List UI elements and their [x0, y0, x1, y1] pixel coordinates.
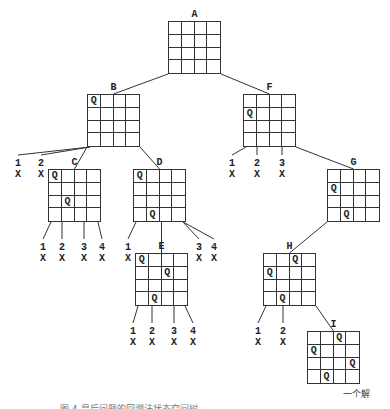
board-cell	[346, 332, 359, 345]
failed-leaf: 2X	[147, 326, 157, 348]
fail-mark-icon: X	[38, 253, 48, 264]
board-cell	[126, 121, 139, 134]
board-cell	[114, 121, 127, 134]
leaf-number: 2	[278, 326, 288, 337]
fail-mark-icon: X	[188, 337, 198, 348]
failed-leaf: 2X	[278, 326, 288, 348]
board-cell	[195, 22, 208, 35]
board-cell	[366, 208, 379, 221]
board-cell	[126, 133, 139, 146]
board-cell	[270, 121, 283, 134]
edge-leaf	[183, 222, 199, 239]
queen-cell: Q	[162, 267, 175, 280]
board-cell	[290, 292, 303, 305]
queen-cell: Q	[264, 267, 277, 280]
failed-leaf: 4X	[188, 326, 198, 348]
board-cell	[195, 35, 208, 48]
queen-cell: Q	[62, 196, 75, 209]
leaf-number: 1	[13, 158, 23, 169]
board-cell	[290, 280, 303, 293]
board-cell	[244, 133, 257, 146]
board-A	[168, 21, 221, 74]
board-cell	[207, 48, 220, 61]
fail-mark-icon: X	[147, 337, 157, 348]
queen-cell: Q	[321, 370, 334, 383]
board-cell	[354, 183, 367, 196]
board-cell	[114, 133, 127, 146]
board-cell	[270, 108, 283, 121]
fail-mark-icon: X	[57, 253, 67, 264]
board-cell	[147, 183, 160, 196]
board-cell	[321, 358, 334, 371]
board-cell	[62, 183, 75, 196]
board-cell	[174, 280, 187, 293]
failed-leaf: 1X	[13, 158, 23, 180]
board-cell	[49, 208, 62, 221]
board-cell	[160, 170, 173, 183]
edge-leaf	[128, 222, 136, 239]
board-cell	[169, 22, 182, 35]
node-label-A: A	[192, 10, 198, 20]
board-cell	[290, 267, 303, 280]
edge-leaf	[185, 306, 193, 323]
figure-caption: 图 4-皇后问题的回溯法状态空间树	[60, 402, 340, 409]
failed-leaf: 1X	[227, 158, 237, 180]
leaf-number: 2	[147, 326, 157, 337]
board-cell	[160, 183, 173, 196]
board-G: QQ	[327, 169, 380, 222]
board-cell	[257, 133, 270, 146]
board-cell	[321, 345, 334, 358]
failed-leaf: 1X	[123, 242, 133, 264]
board-cell	[302, 292, 315, 305]
edge-leaf	[183, 222, 214, 239]
board-cell	[88, 121, 101, 134]
board-cell	[149, 254, 162, 267]
board-cell	[264, 280, 277, 293]
board-cell	[147, 196, 160, 209]
board-cell	[172, 170, 185, 183]
node-label-G: G	[351, 158, 357, 168]
board-cell	[354, 170, 367, 183]
board-cell	[149, 267, 162, 280]
edge-leaf	[258, 306, 266, 323]
fail-mark-icon: X	[194, 253, 204, 264]
board-cell	[270, 95, 283, 108]
board-cell	[244, 121, 257, 134]
board-cell	[49, 183, 62, 196]
board-B: Q	[87, 94, 140, 147]
queen-cell: Q	[290, 254, 303, 267]
board-cell	[321, 332, 334, 345]
leaf-number: 1	[227, 158, 237, 169]
fail-mark-icon: X	[36, 169, 46, 180]
board-cell	[172, 183, 185, 196]
edge-leaf	[18, 147, 90, 155]
fail-mark-icon: X	[252, 169, 262, 180]
board-cell	[172, 196, 185, 209]
board-cell	[207, 35, 220, 48]
board-cell	[87, 208, 100, 221]
queen-cell: Q	[134, 170, 147, 183]
queen-cell: Q	[346, 358, 359, 371]
board-cell	[334, 345, 347, 358]
failed-leaf: 4X	[209, 242, 219, 264]
fail-mark-icon: X	[253, 337, 263, 348]
edge-F-G	[296, 147, 354, 169]
board-cell	[49, 196, 62, 209]
node-label-I: I	[331, 320, 337, 330]
board-cell	[302, 267, 315, 280]
board-cell	[136, 267, 149, 280]
edge-leaf	[43, 222, 51, 239]
board-cell	[207, 22, 220, 35]
leaf-number: 2	[252, 158, 262, 169]
board-cell	[101, 133, 114, 146]
failed-leaf: 1X	[253, 326, 263, 348]
node-label-B: B	[111, 83, 117, 93]
board-cell	[101, 121, 114, 134]
board-cell	[75, 170, 88, 183]
board-cell	[341, 183, 354, 196]
board-cell	[302, 280, 315, 293]
board-cell	[264, 292, 277, 305]
board-cell	[328, 170, 341, 183]
board-D: QQ	[133, 169, 186, 222]
fail-mark-icon: X	[13, 169, 23, 180]
